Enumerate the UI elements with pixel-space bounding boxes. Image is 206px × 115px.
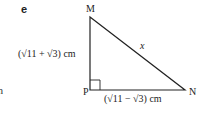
triangle-mpn	[90, 17, 185, 90]
right-angle-marker	[90, 80, 100, 90]
vertex-p-label: P	[83, 86, 89, 97]
side-mn-label: x	[140, 40, 144, 51]
vertex-n-label: N	[189, 86, 196, 97]
side-pn-label: (√11 − √3) cm	[104, 93, 162, 104]
vertex-m-label: M	[86, 3, 95, 14]
side-mp-label: (√11 + √3) cm	[18, 48, 76, 59]
